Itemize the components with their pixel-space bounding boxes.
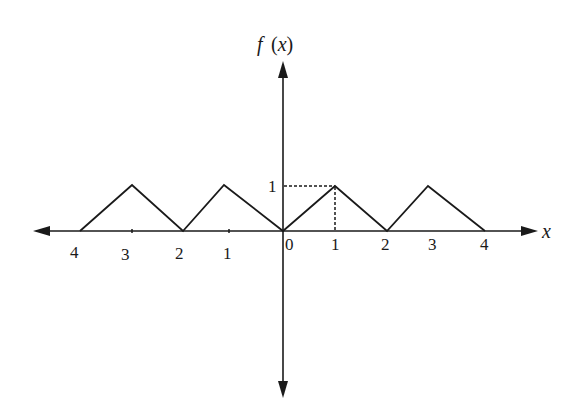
x-tick-label-neg1: 1 xyxy=(223,244,232,263)
function-graph: f (x) x 1 0 4 3 2 1 1 2 3 4 xyxy=(0,0,584,418)
y-axis-down-arrow-icon xyxy=(278,381,288,398)
y-axis-up-arrow-icon xyxy=(278,61,288,78)
y-axis-label-arg: (x) xyxy=(271,33,293,56)
x-tick-label-neg3: 3 xyxy=(121,245,130,264)
x-tick-label-pos3: 3 xyxy=(428,235,437,254)
x-tick-label-neg4: 4 xyxy=(70,243,79,262)
origin-label: 0 xyxy=(285,235,294,254)
x-axis-label: x xyxy=(541,220,551,242)
graph-canvas: f (x) x 1 0 4 3 2 1 1 2 3 4 xyxy=(0,0,584,418)
y-tick-label-1: 1 xyxy=(268,177,277,196)
x-tick-label-pos1: 1 xyxy=(331,235,340,254)
y-axis-label-f: f xyxy=(257,33,265,56)
x-tick-label-neg2: 2 xyxy=(175,244,184,263)
x-axis-right-arrow-icon xyxy=(521,226,538,236)
x-axis-left-arrow-icon xyxy=(33,226,50,236)
x-tick-label-pos4: 4 xyxy=(480,235,489,254)
x-tick-label-pos2: 2 xyxy=(381,235,390,254)
